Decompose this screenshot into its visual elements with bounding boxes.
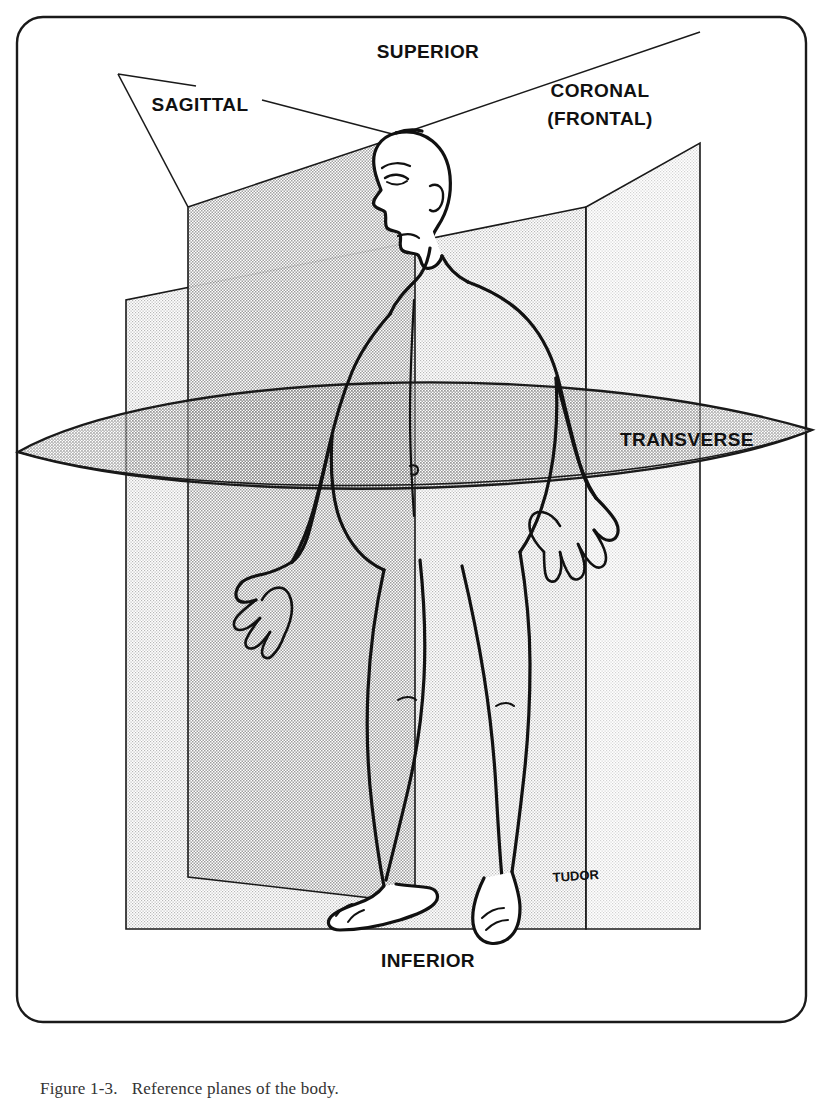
label-superior: SUPERIOR bbox=[377, 41, 479, 62]
label-coronal: CORONAL bbox=[551, 80, 650, 101]
label-sagittal: SAGITTAL bbox=[152, 94, 249, 115]
label-coronal-frontal: (FRONTAL) bbox=[547, 108, 653, 129]
label-inferior: INFERIOR bbox=[381, 950, 475, 971]
figure-caption-text: Reference planes of the body. bbox=[132, 1079, 339, 1098]
planes-of-body-illustration: SUPERIOR SAGITTAL CORONAL (FRONTAL) TRAN… bbox=[0, 0, 823, 1104]
sagittal-leader-line bbox=[262, 100, 400, 136]
label-transverse: TRANSVERSE bbox=[620, 429, 754, 450]
figure-caption: Figure 1-3.Reference planes of the body. bbox=[40, 1079, 339, 1099]
figure-caption-number: Figure 1-3. bbox=[40, 1079, 132, 1098]
anatomical-planes-figure: SUPERIOR SAGITTAL CORONAL (FRONTAL) TRAN… bbox=[0, 0, 823, 1104]
